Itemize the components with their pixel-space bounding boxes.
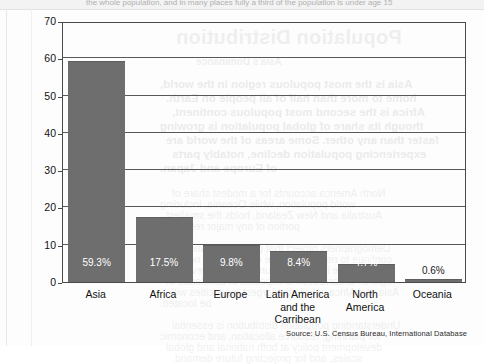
bar: 9.8% (203, 245, 260, 282)
y-tick-label: 70 (22, 15, 56, 27)
x-category-label: NorthAmerica (331, 288, 398, 313)
y-tick-label: 10 (22, 239, 56, 251)
y-tick-mark (58, 171, 62, 172)
bar: 0.6% (405, 279, 462, 282)
x-category-label-line: and the (264, 301, 331, 314)
bar: 4.7% (338, 264, 395, 282)
x-category-label: Europe (197, 288, 264, 301)
bar: 59.3% (68, 61, 125, 282)
x-category-label-line: Latin America (264, 288, 331, 301)
plot-area: 59.3%17.5%9.8%8.4%4.7%0.6% (62, 22, 466, 283)
y-tick-label: 20 (22, 201, 56, 213)
x-category-label: Latin Americaand theCarribean (264, 288, 331, 326)
x-category-label-line: North (331, 288, 398, 301)
bar: 8.4% (270, 251, 327, 282)
bar-value-label: 4.7% (338, 257, 395, 268)
y-tick-label: 0 (22, 276, 56, 288)
y-tick-mark (58, 134, 62, 135)
y-tick-mark (58, 97, 62, 98)
y-tick-label: 30 (22, 164, 56, 176)
y-tick-mark (58, 208, 62, 209)
y-tick-label: 50 (22, 90, 56, 102)
x-category-label-line: Europe (197, 288, 264, 301)
x-category-label: Oceania (399, 288, 466, 301)
bar-value-label: 0.6% (405, 265, 462, 276)
bar-value-label: 8.4% (270, 257, 327, 268)
y-tick-mark (58, 22, 62, 23)
showthrough-line: scales, and for projecting future demand… (172, 352, 362, 364)
y-tick-label: 40 (22, 127, 56, 139)
x-category-label-line: Africa (129, 288, 196, 301)
y-tick-mark (58, 246, 62, 247)
chart-source-note: Source: U.S. Census Bureau, Internationa… (286, 329, 467, 338)
x-category-label-line: Carribean (264, 313, 331, 326)
x-category-label-line: America (331, 301, 398, 314)
x-category-label: Asia (62, 288, 129, 301)
bar-value-label: 9.8% (203, 257, 260, 268)
x-category-label: Africa (129, 288, 196, 301)
x-category-label-line: Asia (62, 288, 129, 301)
bar-series: 59.3%17.5%9.8%8.4%4.7%0.6% (63, 23, 465, 282)
y-tick-label: 60 (22, 52, 56, 64)
x-category-label-line: Oceania (399, 288, 466, 301)
bar: 17.5% (136, 217, 193, 282)
y-tick-mark (58, 59, 62, 60)
bar-value-label: 17.5% (136, 257, 193, 268)
y-tick-mark (58, 283, 62, 284)
bar-value-label: 59.3% (68, 257, 125, 268)
